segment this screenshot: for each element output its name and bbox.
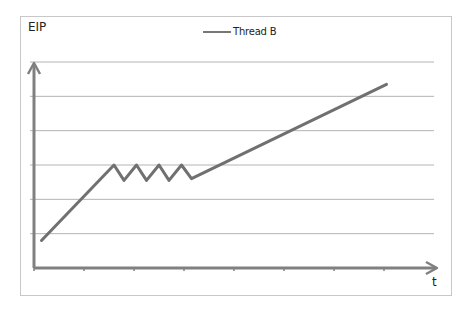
plot-area bbox=[0, 0, 474, 314]
series-line-thread-b bbox=[42, 84, 387, 240]
gridlines bbox=[30, 62, 434, 234]
axes bbox=[28, 63, 437, 274]
